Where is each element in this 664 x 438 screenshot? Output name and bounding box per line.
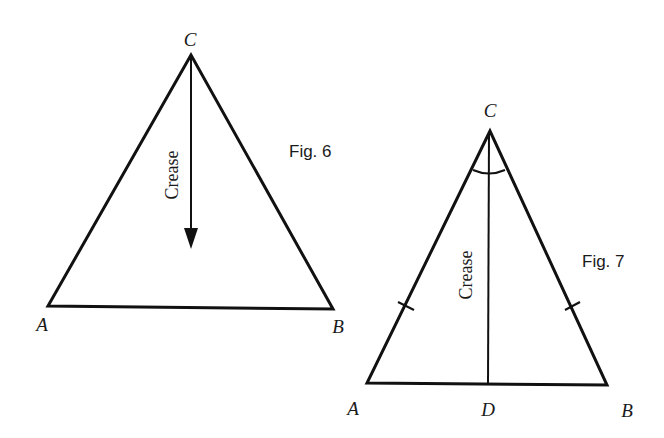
figure-caption-fig7: Fig. 7 bbox=[582, 252, 625, 271]
vertex-label-a-fig7: A bbox=[345, 398, 359, 419]
arrow-down-icon bbox=[184, 228, 198, 249]
vertex-label-b-fig7: B bbox=[621, 400, 633, 421]
crease-line-cd bbox=[488, 133, 489, 384]
vertex-label-b-fig6: B bbox=[332, 316, 344, 337]
vertex-label-c-fig6: C bbox=[184, 29, 197, 50]
vertex-label-c-fig7: C bbox=[484, 100, 497, 121]
triangle-abc-fig7 bbox=[367, 131, 607, 385]
diagram-canvas: Crease C A B Fig. 6 Crease C A D B Fig. … bbox=[0, 0, 664, 438]
crease-label-fig6: Crease bbox=[162, 151, 182, 200]
figure-7: Crease C A D B Fig. 7 bbox=[345, 100, 633, 421]
crease-label-fig7: Crease bbox=[456, 251, 476, 300]
figure-caption-fig6: Fig. 6 bbox=[289, 142, 332, 161]
figure-6: Crease C A B Fig. 6 bbox=[34, 29, 344, 337]
vertex-label-d-fig7: D bbox=[480, 399, 495, 420]
vertex-label-a-fig6: A bbox=[34, 314, 48, 335]
